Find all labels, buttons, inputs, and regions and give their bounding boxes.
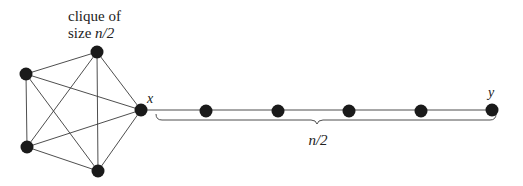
path-node bbox=[343, 105, 356, 118]
node-x bbox=[135, 104, 148, 117]
clique-edges bbox=[26, 52, 141, 171]
clique-node bbox=[21, 141, 34, 154]
clique-path-diagram: clique of size n/2 x y n/2 bbox=[0, 0, 523, 186]
clique-node bbox=[92, 165, 105, 178]
path-node bbox=[272, 105, 285, 118]
path-nodes bbox=[200, 104, 499, 118]
path-node bbox=[200, 105, 213, 118]
label-y: y bbox=[486, 85, 495, 100]
clique-label-line1: clique of bbox=[68, 8, 121, 24]
clique-label-line2: size n/2 bbox=[68, 25, 115, 41]
brace-label: n/2 bbox=[308, 132, 328, 148]
clique-node bbox=[91, 46, 104, 59]
node-y bbox=[486, 104, 499, 117]
clique-nodes bbox=[20, 46, 148, 178]
clique-node bbox=[20, 68, 33, 81]
label-x: x bbox=[146, 91, 154, 106]
path-node bbox=[415, 105, 428, 118]
